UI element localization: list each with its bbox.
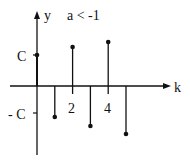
stem-series: [35, 40, 129, 137]
condition-label: a < -1: [67, 8, 100, 23]
y-tick-label-neg-c: - C: [8, 107, 26, 122]
x-axis-label: k: [174, 80, 181, 95]
x-tick-label-4: 4: [104, 101, 111, 116]
x-tick-label-2: 2: [68, 101, 75, 116]
plot-canvas: y a < -1 k C - C 2 4: [0, 0, 190, 163]
stem-marker: [53, 115, 58, 120]
stem-plot: y a < -1 k C - C 2 4: [0, 0, 190, 163]
stem-marker: [106, 40, 111, 45]
stem-marker: [124, 132, 129, 137]
y-axis-label: y: [44, 8, 51, 23]
stem-marker: [88, 124, 93, 129]
y-tick-label-c: C: [17, 49, 26, 64]
stem-marker: [70, 45, 75, 50]
stem-marker: [35, 53, 40, 58]
x-axis-arrow-icon: [163, 83, 171, 89]
y-axis-arrow-icon: [34, 11, 40, 19]
